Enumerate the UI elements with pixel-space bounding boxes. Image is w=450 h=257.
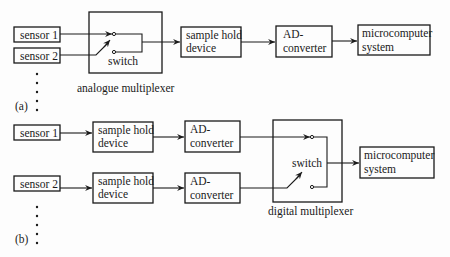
sensor-1-label: sensor 1 xyxy=(20,29,58,41)
sensor-2-block-b: sensor 2 xyxy=(14,176,60,191)
ad1-label-2: converter xyxy=(190,137,234,149)
ad-converter-2-block-b: AD- converter xyxy=(185,173,240,203)
more-sensors-dots-a xyxy=(36,73,38,111)
ad2-label-2: converter xyxy=(190,189,234,201)
ad1-label-1: AD- xyxy=(190,123,211,135)
sensor-1-block-a: sensor 1 xyxy=(14,27,60,42)
sensor-1-block-b: sensor 1 xyxy=(14,125,60,140)
microcomputer-label-2-b: system xyxy=(364,163,396,176)
digital-multiplexer-block: switch xyxy=(240,120,342,202)
ad2-label-1: AD- xyxy=(190,175,211,187)
analogue-multiplexer-caption: analogue multiplexer xyxy=(77,82,175,95)
ad-label-2: converter xyxy=(283,42,327,54)
part-a: sensor 1 sensor 2 switch analogue multip… xyxy=(14,12,432,113)
switch-contact-top-icon xyxy=(112,32,115,35)
sh1-label-1: sample hold xyxy=(98,124,154,137)
part-a-label: (a) xyxy=(15,100,28,113)
microcomputer-block-a: microcomputer system xyxy=(358,25,432,55)
sh2-label-1: sample hold xyxy=(98,175,154,188)
microcomputer-label-1: microcomputer xyxy=(362,27,432,40)
switch-label-b: switch xyxy=(292,157,322,169)
block-diagram: sensor 1 sensor 2 switch analogue multip… xyxy=(0,0,450,257)
sensor-1-label-b: sensor 1 xyxy=(20,127,58,139)
sh1-label-2: device xyxy=(98,137,128,149)
microcomputer-label-2: system xyxy=(362,41,394,54)
sample-hold-2-block-b: sample hold device xyxy=(93,173,154,203)
microcomputer-block-b: microcomputer system xyxy=(360,147,434,178)
sample-hold-label-1: sample hold xyxy=(186,29,242,42)
switch-contact-bottom-icon xyxy=(112,50,115,53)
sensor-2-label: sensor 2 xyxy=(20,50,58,62)
sensor-2-block-a: sensor 2 xyxy=(14,48,60,63)
ad-converter-block-a: AD- converter xyxy=(276,26,332,57)
sample-hold-1-block-b: sample hold device xyxy=(93,122,154,152)
digital-multiplexer-caption: digital multiplexer xyxy=(268,205,353,218)
ad-converter-1-block-b: AD- converter xyxy=(185,121,240,152)
sample-hold-label-2: device xyxy=(186,42,216,54)
switch-contact-bottom-icon-b xyxy=(310,185,313,188)
part-b: sensor 1 sample hold device AD- converte… xyxy=(14,120,434,246)
switch-label-a: switch xyxy=(108,55,138,67)
sh2-label-2: device xyxy=(98,188,128,200)
more-sensors-dots-b xyxy=(36,206,38,244)
microcomputer-label-1-b: microcomputer xyxy=(364,149,434,162)
part-b-label: (b) xyxy=(15,233,29,246)
sample-hold-block-a: sample hold device xyxy=(181,27,242,57)
sensor-2-label-b: sensor 2 xyxy=(20,178,58,190)
ad-label-1: AD- xyxy=(283,28,304,40)
switch-contact-top-icon-b xyxy=(310,135,313,138)
